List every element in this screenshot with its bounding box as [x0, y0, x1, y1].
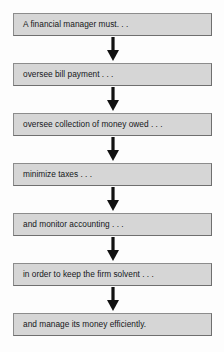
flowchart-node-label: and monitor accounting . . . [23, 220, 124, 228]
flowchart-node-5: and monitor accounting . . . [13, 213, 212, 236]
flowchart-node-3: oversee collection of money owed . . . [13, 113, 212, 136]
arrow-down-icon-6 [13, 286, 212, 313]
flowchart-node-label: minimize taxes . . . [23, 170, 92, 178]
flowchart-node-6: in order to keep the firm solvent . . . [13, 263, 212, 286]
flowchart-node-label: and manage its money efficiently. [23, 320, 146, 328]
arrow-down-icon-3 [13, 136, 212, 163]
arrow-down-icon-1 [13, 36, 212, 63]
flowchart-node-2: oversee bill payment . . . [13, 63, 212, 86]
arrow-down-icon-2 [13, 86, 212, 113]
flowchart-node-label: in order to keep the firm solvent . . . [23, 270, 154, 278]
arrow-down-icon-5 [13, 236, 212, 263]
flowchart-node-4: minimize taxes . . . [13, 163, 212, 186]
flowchart-node-label: oversee collection of money owed . . . [23, 120, 163, 128]
arrow-down-icon-4 [13, 186, 212, 213]
flowchart-diagram: A financial manager must. . . oversee bi… [0, 0, 224, 352]
flowchart-node-label: oversee bill payment . . . [23, 70, 113, 78]
flowchart-chain: A financial manager must. . . oversee bi… [13, 13, 212, 336]
flowchart-node-1: A financial manager must. . . [13, 13, 212, 36]
flowchart-node-7: and manage its money efficiently. [13, 313, 212, 336]
flowchart-node-label: A financial manager must. . . [23, 20, 128, 28]
